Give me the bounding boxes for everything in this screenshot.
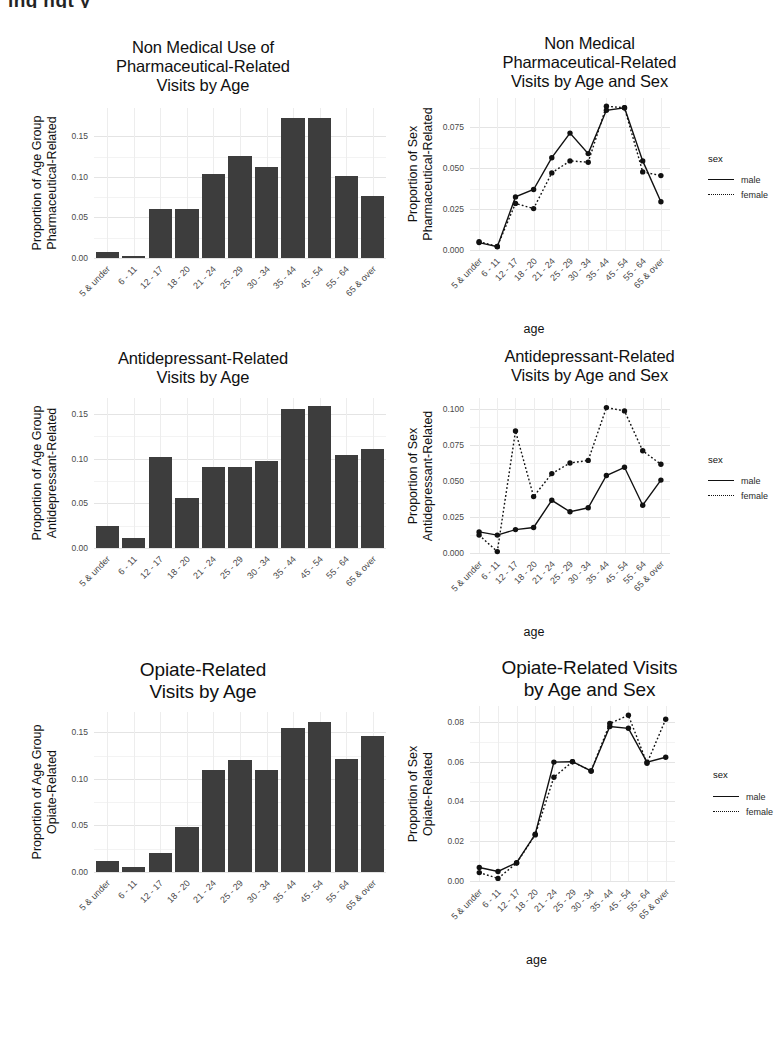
bar-10 — [361, 449, 384, 548]
bar-8 — [308, 722, 331, 872]
gridline-horizontal — [94, 872, 386, 873]
plot-area-p4 — [470, 398, 670, 553]
x-axis-title-p4: age — [398, 625, 670, 639]
y-ticks-p5: 0.000.050.100.15 — [58, 712, 92, 872]
panel-p5: Opiate-RelatedVisits by AgeProportion of… — [8, 655, 398, 975]
gridline-vertical — [134, 108, 135, 258]
y-tick-label: 0.050 — [443, 163, 464, 173]
x-tick-label: 18 - 20 — [165, 554, 192, 581]
legend-item-male[interactable]: male — [708, 173, 768, 188]
line-female — [479, 408, 661, 552]
legend-key-female — [708, 190, 734, 200]
panel-title-line: Non Medical Use of — [8, 38, 398, 57]
point-male — [658, 477, 663, 482]
gridline-horizontal — [94, 258, 386, 259]
legend-label: female — [741, 190, 768, 200]
gridline-horizontal — [470, 250, 670, 251]
point-female — [658, 462, 663, 467]
bar-8 — [308, 118, 331, 258]
panel-p1: Non Medical Use ofPharmaceutical-Related… — [8, 34, 398, 334]
point-male — [586, 505, 591, 510]
point-female — [604, 104, 609, 109]
point-female — [570, 759, 575, 764]
panel-title-line: Non Medical — [398, 34, 781, 53]
legend-item-male[interactable]: male — [713, 789, 773, 804]
bar-2 — [149, 457, 172, 548]
point-male — [531, 525, 536, 530]
gridline-horizontal — [470, 553, 670, 554]
point-male — [640, 158, 645, 163]
plot-area-p5 — [94, 712, 386, 872]
x-ticks-p5: 5 & under6 - 1112 - 1718 - 2021 - 2425 -… — [94, 876, 386, 936]
panel-title-p5: Opiate-RelatedVisits by Age — [8, 659, 398, 703]
point-male — [549, 155, 554, 160]
legend-title: sex — [708, 454, 768, 465]
legend-line-icon — [708, 495, 734, 496]
bar-1 — [122, 256, 145, 258]
legend-title: sex — [708, 153, 768, 164]
legend-label: male — [741, 175, 761, 185]
y-ticks-p4: 0.0000.0250.0500.0750.100 — [434, 398, 468, 553]
bar-2 — [149, 209, 172, 258]
y-axis-label-text: Proportion of Age GroupAntidepressant-Re… — [30, 406, 60, 541]
panel-title-line: Antidepressant-Related — [8, 349, 398, 368]
point-male — [513, 194, 518, 199]
gridline-horizontal — [470, 881, 675, 882]
y-axis-label-p1: Proportion of Age GroupPharmaceutical-Re… — [28, 108, 62, 258]
y-axis-label-p5: Proportion of Age GroupOpiate-Related — [28, 712, 62, 872]
legend-item-female[interactable]: female — [713, 804, 773, 819]
line-male — [479, 467, 661, 535]
point-female — [495, 244, 500, 249]
point-female — [607, 721, 612, 726]
x-tick-label: 18 - 20 — [165, 264, 192, 291]
panel-title-line: Antidepressant-Related — [398, 347, 781, 366]
x-tick-label: 5 & under — [78, 554, 113, 589]
legend-item-female[interactable]: female — [708, 188, 768, 203]
point-male — [640, 503, 645, 508]
y-tick-label: 0.000 — [443, 548, 464, 558]
x-ticks-p1: 5 & under6 - 1112 - 1718 - 2021 - 2425 -… — [94, 262, 386, 322]
point-female — [644, 761, 649, 766]
panel-title-p2: Non MedicalPharmaceutical-RelatedVisits … — [398, 34, 781, 91]
x-tick-label: 12 - 17 — [139, 878, 166, 905]
x-tick-label: 45 - 54 — [298, 878, 325, 905]
x-tick-label: 45 - 54 — [298, 264, 325, 291]
bar-4 — [202, 174, 225, 258]
bar-8 — [308, 406, 331, 548]
y-tick-label: 0.000 — [443, 245, 464, 255]
point-female — [626, 713, 631, 718]
point-male — [567, 509, 572, 514]
legend-item-male[interactable]: male — [708, 474, 768, 489]
y-tick-label: 0.00 — [447, 876, 464, 886]
panel-title-p6: Opiate-Related Visitsby Age and Sex — [398, 657, 781, 701]
line-male — [479, 727, 665, 872]
legend-line-icon — [708, 480, 734, 481]
point-male — [567, 130, 572, 135]
y-tick-label: 0.025 — [443, 512, 464, 522]
legend-key-female — [713, 807, 739, 817]
panel-title-p3: Antidepressant-RelatedVisits by Age — [8, 349, 398, 387]
legend-p4: sexmalefemale — [708, 454, 768, 504]
point-female — [514, 860, 519, 865]
legend-item-female[interactable]: female — [708, 489, 768, 504]
y-tick-label: 0.00 — [71, 867, 88, 877]
point-female — [476, 532, 481, 537]
y-tick-label: 0.02 — [447, 836, 464, 846]
legend-label: male — [746, 792, 766, 802]
point-male — [495, 869, 500, 874]
y-axis-label-text: Proportion of SexOpiate-Related — [406, 745, 436, 842]
y-axis-label-p6: Proportion of SexOpiate-Related — [404, 706, 438, 881]
line-series-group — [470, 706, 675, 881]
x-tick-label: 25 - 29 — [218, 264, 245, 291]
bar-2 — [149, 853, 172, 872]
y-tick-label: 0.15 — [71, 727, 88, 737]
x-tick-label: 6 - 11 — [116, 264, 139, 287]
x-ticks-p4: 5 & under6 - 1112 - 1718 - 2021 - 2425 -… — [470, 557, 670, 617]
y-tick-label: 0.00 — [71, 253, 88, 263]
legend-line-icon — [708, 194, 734, 195]
x-tick-label: 35 - 44 — [271, 554, 298, 581]
y-tick-label: 0.050 — [443, 476, 464, 486]
y-tick-label: 0.100 — [443, 404, 464, 414]
point-male — [658, 199, 663, 204]
x-tick-label: 45 - 54 — [298, 554, 325, 581]
